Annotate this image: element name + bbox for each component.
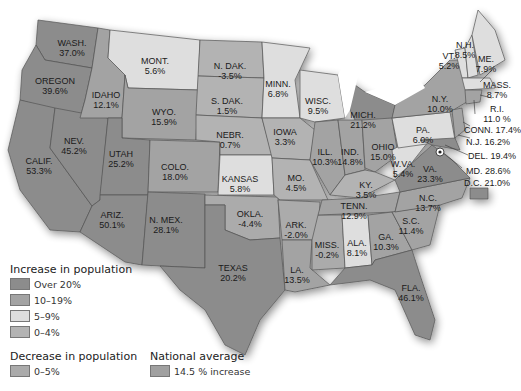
label-fla: FLA.46.1% bbox=[398, 283, 424, 303]
legend-national-title: National average bbox=[150, 350, 250, 363]
label-ariz: ARIZ.50.1% bbox=[99, 210, 125, 230]
label-conn: CONN. 17.4% bbox=[464, 125, 521, 135]
label-colo: COLO.18.0% bbox=[161, 162, 189, 182]
legend-item-over20: Over 20% bbox=[10, 276, 132, 292]
legend-increase-title: Increase in population bbox=[10, 263, 132, 276]
legend-item-5-9: 5–9% bbox=[10, 308, 132, 324]
label-dc: D.C. 21.0% bbox=[464, 178, 510, 188]
legend-decrease: Decrease in population 0–5% bbox=[10, 350, 137, 379]
label-mich: MICH.21.2% bbox=[350, 110, 376, 130]
label-minn: MINN.6.8% bbox=[265, 79, 291, 99]
label-sc: S.C.11.4% bbox=[399, 216, 424, 236]
label-wyo: WYO.15.9% bbox=[151, 107, 177, 127]
label-kansas: KANSAS5.8% bbox=[222, 174, 259, 194]
label-utah: UTAH25.2% bbox=[108, 149, 134, 169]
label-sdak: S. DAK.1.5% bbox=[211, 96, 243, 116]
label-iowa: IOWA3.3% bbox=[273, 127, 297, 147]
label-la: LA.13.5% bbox=[284, 265, 310, 285]
legend-national: National average 14.5 % increase bbox=[150, 350, 250, 379]
label-ga: GA.10.3% bbox=[373, 232, 399, 252]
legend-item-decrease-0-5: 0–5% bbox=[10, 363, 137, 379]
label-nev: NEV.45.2% bbox=[61, 136, 87, 156]
label-ill: ILL.10.3% bbox=[312, 147, 338, 167]
label-ri: R.I.11.0 % bbox=[483, 104, 510, 124]
label-idaho: IDAHO12.1% bbox=[92, 90, 121, 110]
label-pa: PA.6.0% bbox=[413, 125, 434, 145]
label-mo: MO.4.5% bbox=[286, 173, 307, 193]
label-texas: TEXAS20.2% bbox=[218, 263, 248, 283]
legend-item-national-average: 14.5 % increase bbox=[150, 363, 250, 379]
label-wash: WASH.37.0% bbox=[57, 38, 86, 58]
label-ind: IND.14.8% bbox=[337, 147, 363, 167]
label-okla: OKLA.-4.4% bbox=[237, 209, 264, 229]
label-wisc: WISC.9.5% bbox=[305, 96, 331, 116]
label-mass: MASS.8.7% bbox=[483, 80, 511, 100]
label-ark: ARK.-2.0% bbox=[284, 220, 308, 240]
label-nc: N.C.13.7% bbox=[415, 193, 441, 213]
label-calif: CALIF.53.3% bbox=[25, 156, 52, 176]
label-mont: MONT.5.6% bbox=[141, 56, 169, 76]
label-nmex: N. MEX.28.1% bbox=[149, 215, 183, 235]
legend-item-0-4: 0–4% bbox=[10, 324, 132, 340]
legend-decrease-title: Decrease in population bbox=[10, 350, 137, 363]
label-ndak: N. DAK.-3.5% bbox=[214, 61, 247, 81]
label-oregon: OREGON39.6% bbox=[35, 76, 75, 96]
label-ala: ALA.8.1% bbox=[347, 238, 368, 258]
legend-item-10-19: 10–19% bbox=[10, 292, 132, 308]
label-wva: W.VA.5.4% bbox=[391, 159, 415, 179]
label-del: DEL. 19.4% bbox=[468, 151, 516, 161]
label-ny: N.Y.10.0% bbox=[427, 94, 453, 114]
dc-swatch bbox=[470, 188, 488, 199]
label-me: ME.7.9% bbox=[476, 54, 497, 74]
label-nebr: NEBR.0.7% bbox=[216, 130, 244, 150]
label-tenn: TENN.12.9% bbox=[341, 201, 368, 221]
label-nh: N.H.8.5% bbox=[455, 40, 476, 60]
label-nj: N.J. 16.2% bbox=[466, 137, 510, 147]
legend-increase: Increase in population Over 20% 10–19% 5… bbox=[10, 263, 132, 340]
label-ky: KY.3.5% bbox=[356, 180, 377, 200]
label-va: VA.23.3% bbox=[417, 164, 443, 184]
label-md: MD. 28.6% bbox=[466, 166, 511, 176]
state-conn bbox=[465, 90, 482, 104]
label-miss: MISS.-0.2% bbox=[315, 240, 340, 260]
